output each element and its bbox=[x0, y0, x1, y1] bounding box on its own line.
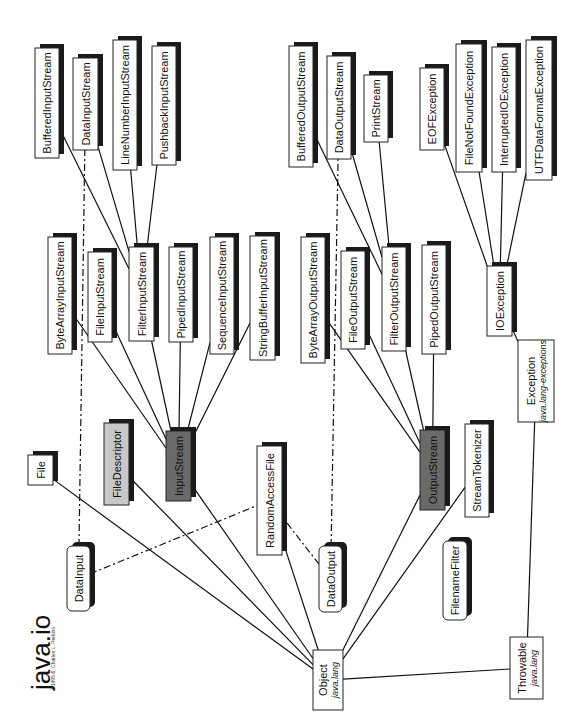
edge-throwable-to-exception bbox=[528, 422, 535, 637]
node-buffered-input-stream[interactable]: BufferedInputStream bbox=[35, 44, 64, 158]
node-throwable[interactable]: Throwablejava.lang bbox=[510, 637, 543, 699]
node-label: PushbackInputStream bbox=[158, 51, 170, 159]
node-label: FilterOutputStream bbox=[388, 253, 400, 346]
node-label: FilenameFilter bbox=[449, 545, 461, 615]
node-label: DataOutput bbox=[325, 551, 337, 607]
node-label: SequenceInputStream bbox=[216, 241, 228, 350]
node-label: LineNumberInputStream bbox=[119, 45, 131, 165]
node-label: DataOutputStream bbox=[333, 62, 345, 154]
node-label: ByteArrayInputStream bbox=[54, 241, 66, 349]
node-input-stream[interactable]: InputStream bbox=[166, 427, 196, 501]
node-pushback-input-stream[interactable]: PushbackInputStream bbox=[152, 42, 181, 165]
node-label: IOException bbox=[494, 271, 506, 331]
edge-ioexception-to-utfdataformatexception bbox=[507, 173, 526, 266]
node-data-input[interactable]: DataInput bbox=[67, 542, 95, 611]
edge-datainput-to-randomaccessfile bbox=[90, 506, 257, 574]
class-hierarchy-diagram: Objectjava.langThrowablejava.langExcepti… bbox=[0, 0, 572, 719]
edge-filterinputstream-to-pushbackinputstream bbox=[147, 165, 157, 247]
edge-inputstream-to-filterinputstream bbox=[152, 341, 171, 431]
node-label: InterruptedIOException bbox=[498, 53, 510, 166]
node-file-not-found-exception[interactable]: FileNotFoundException bbox=[456, 40, 487, 172]
node-label: StreamTokenizer bbox=[471, 429, 483, 512]
edge-object-to-inputstream bbox=[191, 484, 313, 659]
node-package-label: java.lang bbox=[529, 650, 539, 687]
node-label: ByteArrayOutputStream bbox=[307, 242, 319, 359]
edge-object-to-throwable bbox=[343, 669, 510, 679]
node-string-buffer-input-stream[interactable]: StringBufferInputStream bbox=[250, 232, 280, 360]
node-file-descriptor[interactable]: FileDescriptor bbox=[104, 419, 134, 505]
node-data-input-stream[interactable]: DataInputStream bbox=[73, 54, 103, 150]
node-file-input-stream[interactable]: FileInputStream bbox=[88, 248, 117, 342]
edge-filterinputstream-to-linenumberinputstream bbox=[131, 170, 138, 247]
edge-dataoutput-to-dataoutputstream bbox=[331, 159, 338, 546]
node-output-stream[interactable]: OutputStream bbox=[420, 426, 450, 510]
node-stream-tokenizer[interactable]: StreamTokenizer bbox=[465, 420, 494, 517]
edge-ioexception-to-interruptedioexception bbox=[500, 172, 502, 266]
node-label: FileOutputStream bbox=[347, 257, 359, 343]
node-label: OutputStream bbox=[427, 436, 439, 504]
node-random-access-file[interactable]: RandomAccessFile bbox=[257, 442, 287, 555]
node-label: StringBufferInputStream bbox=[257, 239, 269, 357]
node-package-label: java.lang-exceptions bbox=[538, 339, 548, 423]
edge-outputstream-to-pipedoutputstream bbox=[433, 354, 434, 430]
node-label: FilterInputStream bbox=[136, 252, 148, 336]
edge-inputstream-to-pipedinputstream bbox=[179, 342, 180, 431]
edge-filteroutputstream-to-printstream bbox=[379, 142, 389, 247]
edge-datainput-to-datainputstream bbox=[79, 150, 85, 546]
nodes-layer: Objectjava.langThrowablejava.langExcepti… bbox=[28, 36, 557, 710]
copyright-notice: ©1995-6, Charles L. Perkins bbox=[50, 627, 56, 690]
node-package-label: java.lang bbox=[330, 662, 340, 699]
node-label: DataInputStream bbox=[80, 62, 92, 145]
edge-object-to-outputstream bbox=[343, 495, 420, 650]
node-data-output[interactable]: DataOutput bbox=[319, 542, 347, 612]
node-eof-exception[interactable]: EOFException bbox=[420, 64, 449, 150]
node-buffered-output-stream[interactable]: BufferedOutputStream bbox=[289, 42, 318, 167]
node-byte-array-output-stream[interactable]: ByteArrayOutputStream bbox=[301, 233, 330, 363]
node-file-output-stream[interactable]: FileOutputStream bbox=[341, 247, 370, 349]
node-label: File bbox=[35, 461, 47, 479]
node-label: Object bbox=[317, 664, 329, 696]
edge-inputstream-to-sequenceinputstream bbox=[187, 343, 210, 431]
node-label: RandomAccessFile bbox=[264, 453, 276, 548]
node-filename-filter[interactable]: FilenameFilter bbox=[443, 537, 472, 620]
node-line-number-input-stream[interactable]: LineNumberInputStream bbox=[113, 36, 142, 170]
node-print-stream[interactable]: PrintStream bbox=[364, 71, 393, 142]
node-object[interactable]: Objectjava.lang bbox=[313, 650, 343, 710]
node-piped-input-stream[interactable]: PipedInputStream bbox=[169, 243, 198, 342]
node-label: BufferedInputStream bbox=[41, 52, 53, 153]
node-io-exception[interactable]: IOException bbox=[487, 262, 517, 336]
node-label: FileNotFoundException bbox=[463, 51, 475, 165]
node-label: BufferedOutputStream bbox=[295, 52, 307, 162]
node-sequence-input-stream[interactable]: SequenceInputStream bbox=[210, 233, 239, 354]
node-label: InputStream bbox=[173, 436, 185, 496]
node-label: PipedInputStream bbox=[175, 250, 187, 338]
node-utf-data-format-exception[interactable]: UTFDataFormatException bbox=[526, 36, 557, 180]
node-label: PipedOutputStream bbox=[428, 251, 440, 348]
node-piped-output-stream[interactable]: PipedOutputStream bbox=[422, 241, 451, 354]
node-label: Throwable bbox=[516, 642, 528, 693]
node-byte-array-input-stream[interactable]: ByteArrayInputStream bbox=[48, 233, 77, 354]
node-data-output-stream[interactable]: DataOutputStream bbox=[327, 52, 356, 159]
node-file[interactable]: File bbox=[28, 451, 58, 485]
node-label: UTFDataFormatException bbox=[533, 46, 545, 174]
node-filter-input-stream[interactable]: FilterInputStream bbox=[129, 243, 159, 341]
node-label: EOFException bbox=[426, 74, 438, 145]
node-label: DataInput bbox=[73, 555, 85, 603]
node-exception[interactable]: Exceptionjava.lang-exceptions bbox=[518, 339, 554, 423]
node-label: Exception bbox=[525, 357, 537, 405]
node-interrupted-io-exception[interactable]: InterruptedIOException bbox=[492, 43, 521, 172]
node-label: FileDescriptor bbox=[111, 430, 123, 498]
node-filter-output-stream[interactable]: FilterOutputStream bbox=[382, 243, 411, 351]
node-label: PrintStream bbox=[370, 79, 382, 137]
node-label: FileInputStream bbox=[94, 258, 106, 336]
edge-ioexception-to-filenotfoundexception bbox=[479, 172, 494, 266]
